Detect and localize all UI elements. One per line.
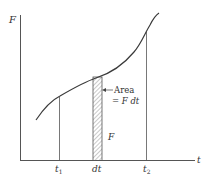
tick-t2: t2	[143, 164, 151, 175]
tick-t2-sub: 2	[147, 168, 151, 175]
tick-dt: dt	[92, 164, 102, 174]
x-axis-label: t	[197, 155, 201, 165]
area-label: Area	[113, 85, 134, 95]
y-axis-label: F	[8, 14, 17, 25]
strip-height-label: F	[107, 132, 115, 142]
tick-t1: t1	[55, 164, 62, 175]
tick-t1-sub: 1	[59, 168, 63, 175]
area-formula: = F dt	[112, 96, 140, 106]
arrow-head-icon	[102, 88, 106, 92]
area-strip	[93, 77, 102, 161]
force-time-diagram: F t Area = F dt F t1 dt t2	[0, 0, 211, 183]
